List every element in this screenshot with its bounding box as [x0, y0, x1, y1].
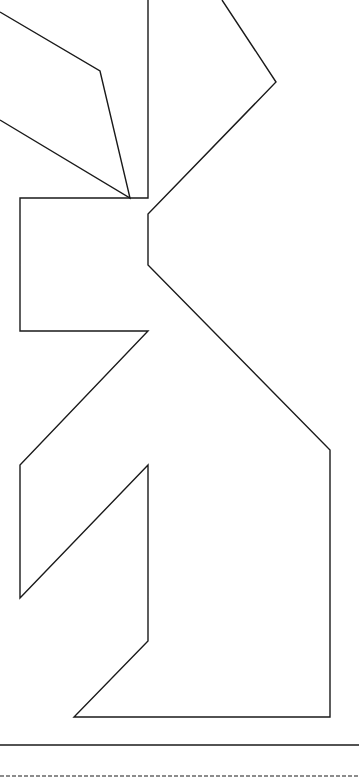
left-ear-shape: [0, 12, 130, 198]
rabbit-body-outline: [20, 0, 330, 717]
tangram-figure: [0, 0, 359, 779]
